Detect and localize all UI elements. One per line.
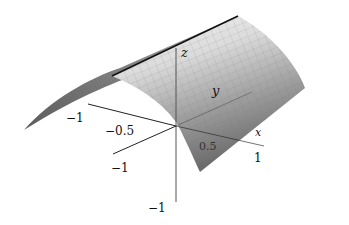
tick-y-neg1: −1 (111, 162, 129, 174)
tick-x-1: 1 (254, 152, 262, 164)
tick-z-neg1: −1 (148, 202, 166, 214)
x-axis-negative (88, 104, 176, 126)
tick-x-05: 0.5 (199, 141, 217, 152)
axes-back (88, 104, 176, 126)
tick-x-neg1: −1 (66, 112, 84, 124)
z-axis-label: z (181, 46, 188, 59)
x-axis-label: x (255, 127, 261, 138)
surface-plot (0, 0, 349, 225)
tick-x-neg05: −0.5 (105, 125, 134, 137)
y-axis-label: y (212, 84, 219, 97)
